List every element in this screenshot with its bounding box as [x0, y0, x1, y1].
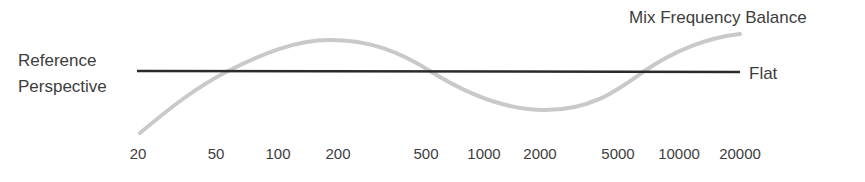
chart-title: Mix Frequency Balance — [629, 9, 807, 26]
tick-label: 20000 — [719, 146, 761, 161]
perspective-label: Perspective — [18, 78, 107, 95]
tick-label: 500 — [413, 146, 438, 161]
tick-label: 5000 — [601, 146, 634, 161]
tick-label: 50 — [208, 146, 225, 161]
mix-frequency-balance-curve — [140, 34, 740, 133]
tick-label: 100 — [265, 146, 290, 161]
tick-label: 20 — [130, 146, 147, 161]
tick-label: 1000 — [467, 146, 500, 161]
tick-label: 200 — [325, 146, 350, 161]
tick-label: 10000 — [658, 146, 700, 161]
tick-label: 2000 — [523, 146, 556, 161]
flat-label: Flat — [749, 65, 777, 82]
flat-reference-line — [137, 71, 740, 72]
reference-label: Reference — [18, 52, 96, 69]
